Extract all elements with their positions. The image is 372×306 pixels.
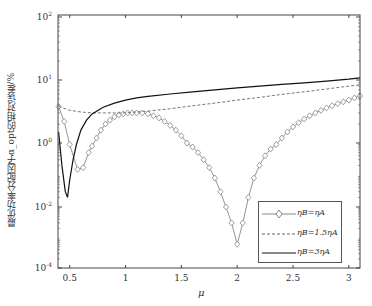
diamond-marker [145,111,150,117]
y-tick-label: 10-4 [35,261,52,273]
diamond-marker [246,194,251,200]
legend-item-eta-b-3-eta-a: ηB=3ηA [259,246,343,260]
diamond-marker [140,110,145,116]
x-tick-label: 3 [346,273,352,283]
diamond-marker [62,118,67,124]
diamond-marker [335,101,340,107]
y-tick-label: 102 [37,10,52,22]
diamond-marker [296,120,301,126]
diamond-marker [67,141,72,147]
diamond-marker [212,175,217,181]
series-line-2 [59,78,360,197]
diamond-marker [81,165,86,171]
diamond-marker [223,204,228,210]
diamond-marker [94,135,99,141]
diamond-marker [318,107,323,113]
diamond-marker [302,116,307,122]
legend: ηB=ηA ηB=1.5ηA ηB=3ηA [258,201,342,263]
diamond-marker [218,189,223,195]
legend-label: ηB=1.5ηA [297,228,338,237]
x-tick-label: 2.5 [286,273,301,283]
x-tick-label: 1 [123,273,129,283]
y-tick-label: 101 [37,73,52,85]
dashed-line-icon [262,229,296,239]
diamond-marker [257,162,262,168]
diamond-marker [121,111,126,117]
diamond-marker [346,97,351,103]
diamond-marker [89,143,94,149]
legend-item-eta-b-eq-eta-a: ηB=ηA [259,207,343,221]
x-tick-label: 0.5 [63,273,78,283]
diamond-marker [56,103,61,109]
diamond-line-icon [262,209,296,219]
diamond-marker [235,241,240,247]
diamond-marker [352,95,357,101]
y-axis-label: 最优功率分配因子α_opt的相对误差/% [4,40,20,260]
diamond-marker [168,122,173,128]
y-tick-label: 100 [37,136,52,148]
solid-line-icon [262,248,296,258]
diamond-marker [313,110,318,116]
diamond-marker [251,175,256,181]
legend-item-eta-b-1-5-eta-a: ηB=1.5ηA [259,227,343,241]
diamond-marker [240,220,245,226]
diamond-marker [341,99,346,105]
legend-label: ηB=3ηA [297,247,330,256]
diamond-marker [86,150,91,156]
x-axis-label: μ [198,287,205,298]
diamond-marker [75,166,80,172]
diamond-marker [156,115,161,121]
diamond-marker [151,113,156,119]
series-line-1 [59,85,360,113]
x-tick-label: 1.5 [174,273,189,283]
diamond-marker [307,113,312,119]
diamond-marker [162,118,167,124]
x-tick-label: 2 [234,273,240,283]
diamond-marker [324,105,329,111]
legend-label: ηB=ηA [297,208,325,217]
diamond-marker [329,103,334,109]
diamond-marker [229,220,234,226]
y-tick-label: 10-2 [35,200,52,212]
diamond-marker [134,110,139,116]
